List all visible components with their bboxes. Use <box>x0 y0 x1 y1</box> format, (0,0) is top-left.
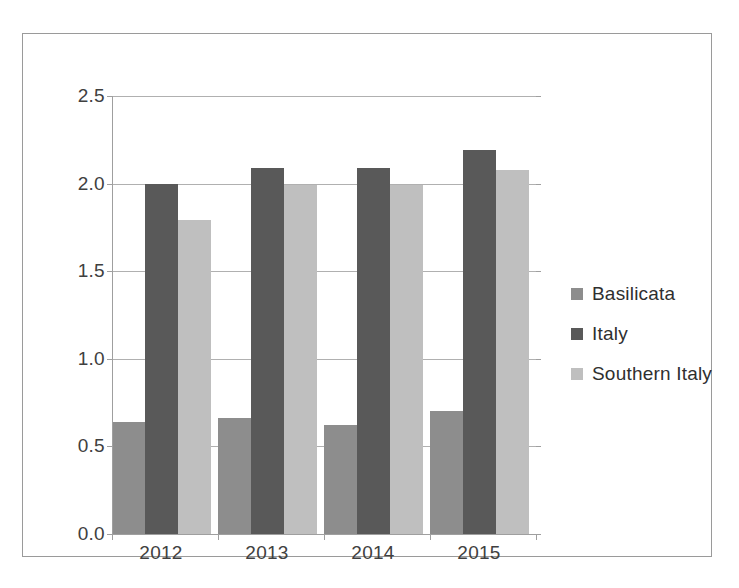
legend-label-southern-italy: Southern Italy <box>592 363 712 385</box>
y-axis-label-0.5: 0.5 <box>59 435 105 457</box>
bar-basilicata-2015[interactable] <box>430 411 463 534</box>
y-axis-label-1.0: 1.0 <box>59 348 105 370</box>
y-tick-right-1.0 <box>536 359 541 360</box>
category-tick-0 <box>112 534 113 540</box>
x-axis-label-2012: 2012 <box>139 542 182 564</box>
bar-southern-italy-2013[interactable] <box>284 185 317 534</box>
legend-swatch-italy <box>571 328 583 340</box>
legend-item-southern-italy[interactable]: Southern Italy <box>571 354 721 394</box>
legend-label-basilicata: Basilicata <box>592 283 675 305</box>
bar-italy-2013[interactable] <box>251 168 284 534</box>
y-tick-right-2.0 <box>536 184 541 185</box>
bar-group-2012 <box>112 96 211 534</box>
y-tick-right-1.5 <box>536 271 541 272</box>
category-tick-2 <box>324 534 325 540</box>
category-tick-3 <box>430 534 431 540</box>
bar-group-2015 <box>430 96 529 534</box>
bar-basilicata-2012[interactable] <box>112 422 145 534</box>
legend-swatch-basilicata <box>571 288 583 300</box>
bar-basilicata-2014[interactable] <box>324 425 357 534</box>
chart-legend: BasilicataItalySouthern Italy <box>571 274 721 394</box>
x-axis-label-2015: 2015 <box>457 542 500 564</box>
bar-southern-italy-2012[interactable] <box>178 220 211 534</box>
bar-southern-italy-2015[interactable] <box>496 170 529 534</box>
x-axis-tick-labels: 2012201320142015 <box>112 542 536 572</box>
x-axis-label-2013: 2013 <box>245 542 288 564</box>
legend-swatch-southern-italy <box>571 368 583 380</box>
bar-group-2013 <box>218 96 317 534</box>
legend-item-italy[interactable]: Italy <box>571 314 721 354</box>
y-axis-label-2.0: 2.0 <box>59 173 105 195</box>
bar-italy-2014[interactable] <box>357 168 390 534</box>
y-tick-right-2.5 <box>536 96 541 97</box>
y-axis-label-0.0: 0.0 <box>59 523 105 545</box>
category-tick-4 <box>536 534 537 540</box>
chart-frame: 0.00.51.01.52.02.5 2012201320142015 Basi… <box>22 33 712 557</box>
bar-italy-2015[interactable] <box>463 150 496 534</box>
bar-group-2014 <box>324 96 423 534</box>
category-tick-1 <box>218 534 219 540</box>
x-axis-label-2014: 2014 <box>351 542 394 564</box>
plot-area <box>112 96 536 534</box>
bar-italy-2012[interactable] <box>145 184 178 534</box>
y-tick-right-0.5 <box>536 446 541 447</box>
y-axis-label-1.5: 1.5 <box>59 260 105 282</box>
bar-basilicata-2013[interactable] <box>218 418 251 534</box>
value-axis-line <box>112 96 113 535</box>
y-axis-tick-labels: 0.00.51.01.52.02.5 <box>53 96 105 534</box>
legend-label-italy: Italy <box>592 323 628 345</box>
y-axis-label-2.5: 2.5 <box>59 85 105 107</box>
legend-item-basilicata[interactable]: Basilicata <box>571 274 721 314</box>
bar-southern-italy-2014[interactable] <box>390 185 423 534</box>
